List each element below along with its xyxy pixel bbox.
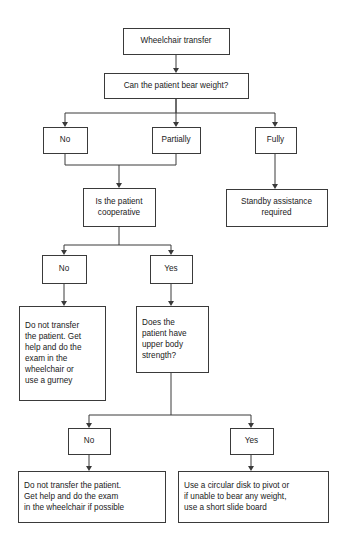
edge-connector — [62, 98, 176, 127]
edge-connector — [176, 113, 278, 127]
edge-connector — [65, 153, 122, 188]
flow-node-weight-partially[interactable]: Partially — [153, 128, 201, 154]
node-label-line: Standby assistance — [241, 197, 312, 206]
arrowhead-icon — [272, 184, 278, 189]
edge-connector — [61, 226, 119, 255]
node-label-line: Is the patient — [96, 197, 144, 206]
edge-connector — [61, 283, 67, 306]
edge-line — [176, 113, 275, 123]
flow-node-no-transfer-possible[interactable]: Do not transfer the patient.Get help and… — [19, 472, 166, 523]
node-label-line: Yes — [164, 264, 177, 273]
node-label-line: Does the — [142, 318, 175, 327]
arrowhead-icon — [116, 183, 122, 188]
edge-connector — [171, 415, 254, 428]
node-label-line: if unable to bear any weight, — [184, 492, 286, 501]
flow-node-coop-no[interactable]: No — [43, 256, 87, 284]
flow-node-upper-yes[interactable]: Yes — [231, 429, 274, 455]
edge-connector — [168, 283, 174, 306]
edge-connector — [86, 454, 92, 471]
node-label-line: strength? — [142, 351, 177, 360]
node-label-line: the patient. Get — [25, 332, 82, 341]
flow-node-coop-yes[interactable]: Yes — [151, 256, 193, 284]
arrowhead-icon — [61, 250, 67, 255]
node-label-line: use a gurney — [25, 376, 73, 385]
arrowhead-icon — [86, 423, 92, 428]
edge-connector — [248, 454, 254, 471]
node-label-line: Yes — [245, 436, 258, 445]
edge-connector — [173, 54, 179, 73]
flow-node-standby[interactable]: Standby assistancerequired — [227, 190, 328, 227]
node-label-line: use a short slide board — [184, 503, 267, 512]
flowchart-canvas: Wheelchair transferCan the patient bear … — [0, 0, 344, 543]
edge-line — [119, 153, 176, 165]
node-label-line: Partially — [161, 135, 191, 144]
node-label-line: No — [60, 135, 71, 144]
node-label-line: Wheelchair transfer — [141, 36, 212, 45]
flow-node-slide-board[interactable]: Use a circular disk to pivot orif unable… — [179, 472, 329, 523]
arrowhead-icon — [272, 122, 278, 127]
arrowhead-icon — [61, 301, 67, 306]
arrowhead-icon — [248, 423, 254, 428]
edge-connector — [119, 245, 174, 255]
arrowhead-icon — [62, 122, 68, 127]
node-label-line: No — [84, 436, 95, 445]
node-label-line: Use a circular disk to pivot or — [184, 481, 289, 490]
arrowhead-icon — [248, 466, 254, 471]
arrowhead-icon — [173, 122, 179, 127]
node-label-line: help and do the — [25, 343, 82, 352]
flow-node-upper-no[interactable]: No — [69, 429, 111, 455]
node-label-line: Do not transfer — [25, 321, 79, 330]
node-label-line: Get help and do the exam — [24, 492, 118, 501]
node-label-line: upper body — [142, 340, 184, 349]
node-label-line: cooperative — [98, 208, 141, 217]
flow-node-weight-fully[interactable]: Fully — [256, 128, 297, 154]
node-label-line: required — [261, 208, 291, 217]
edge-connector — [272, 153, 278, 189]
arrowhead-icon — [168, 301, 174, 306]
node-label-line: patient have — [142, 329, 187, 338]
flowchart-svg: Wheelchair transferCan the patient bear … — [0, 0, 344, 543]
flow-node-start[interactable]: Wheelchair transfer — [124, 29, 230, 55]
node-label-line: in the wheelchair if possible — [24, 503, 125, 512]
node-label-line: Do not transfer the patient. — [24, 481, 121, 490]
edge-connector — [119, 153, 176, 165]
edge-line — [65, 153, 119, 184]
arrowhead-icon — [86, 466, 92, 471]
flow-node-no-transfer-gurney[interactable]: Do not transferthe patient. Gethelp and … — [20, 307, 106, 401]
node-label-line: No — [59, 264, 70, 273]
edge-line — [65, 98, 176, 123]
edge-line — [171, 415, 251, 424]
arrowhead-icon — [173, 68, 179, 73]
node-label-line: Can the patient bear weight? — [124, 81, 229, 90]
flow-node-bear-weight[interactable]: Can the patient bear weight? — [105, 74, 249, 99]
edge-line — [64, 226, 119, 251]
node-label-line: exam in the — [25, 354, 68, 363]
node-label-line: Fully — [267, 135, 285, 144]
edge-line — [119, 245, 171, 251]
nodes-layer: Wheelchair transferCan the patient bear … — [19, 29, 329, 523]
flow-node-cooperative[interactable]: Is the patientcooperative — [84, 189, 156, 227]
node-label-line: wheelchair or — [24, 365, 74, 374]
flow-node-weight-no[interactable]: No — [44, 128, 88, 154]
flow-node-upper-body[interactable]: Does thepatient haveupper bodystrength? — [137, 307, 209, 373]
arrowhead-icon — [168, 250, 174, 255]
